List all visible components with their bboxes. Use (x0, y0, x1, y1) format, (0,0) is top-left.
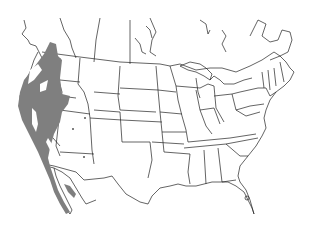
range-main (18, 42, 70, 214)
canadian-lakes (135, 20, 292, 60)
gulf-coast (148, 182, 254, 214)
canada-interior-lines (60, 18, 156, 64)
range-sonora-coast (64, 184, 76, 198)
range-patch-arizona (83, 156, 85, 158)
east-coast (238, 68, 294, 214)
range-map (0, 0, 322, 231)
great-lakes (180, 62, 252, 98)
bc-coast (22, 20, 42, 58)
state-boundaries (30, 58, 284, 184)
range-patch-utah-2 (72, 128, 74, 130)
range-patch-utah-1 (84, 117, 86, 119)
